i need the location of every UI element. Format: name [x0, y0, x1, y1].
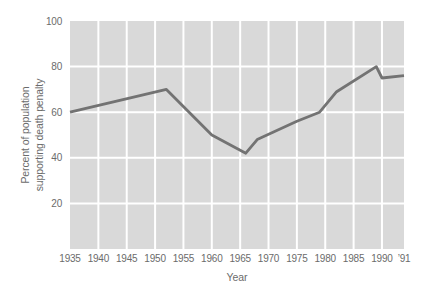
y-axis-title-line2: supporting death penalty: [32, 54, 46, 216]
death-penalty-support-chart: Percent of population supporting death p…: [0, 0, 432, 294]
y-tick-40: 40: [32, 151, 62, 164]
x-tick-1991: ’91: [386, 252, 422, 265]
y-tick-100: 100: [32, 15, 62, 28]
y-axis-title-line1: Percent of population: [18, 54, 32, 216]
y-axis-title: Percent of population supporting death p…: [18, 54, 46, 216]
plot-area: [0, 0, 432, 294]
y-tick-20: 20: [32, 197, 62, 210]
x-axis-title: Year: [207, 271, 267, 284]
y-tick-60: 60: [32, 106, 62, 119]
y-tick-80: 80: [32, 60, 62, 73]
